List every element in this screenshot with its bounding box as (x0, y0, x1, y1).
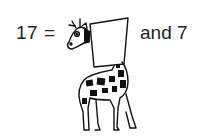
equation-left: 17 = (16, 22, 56, 44)
equation-right: and 7 (140, 22, 188, 44)
giraffe-icon (62, 12, 142, 134)
